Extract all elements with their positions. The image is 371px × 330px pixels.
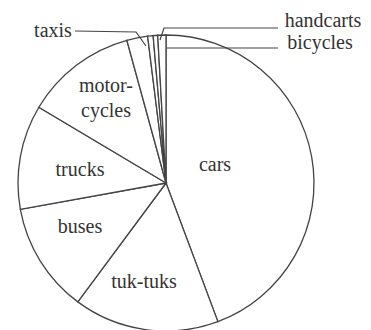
slice-label-cars: cars bbox=[199, 153, 231, 175]
slice-label-handcarts: handcarts bbox=[285, 9, 362, 31]
slice-label-tuk-tuks: tuk-tuks bbox=[111, 270, 177, 292]
slice-label-trucks: trucks bbox=[56, 158, 105, 180]
slice-label-taxis: taxis bbox=[34, 19, 72, 41]
slice-label-buses: buses bbox=[58, 215, 103, 237]
slice-label-bicycles: bicycles bbox=[287, 31, 353, 54]
pie-chart: carstuk-tuksbusestrucksmotor-cyclestaxis… bbox=[0, 0, 371, 330]
